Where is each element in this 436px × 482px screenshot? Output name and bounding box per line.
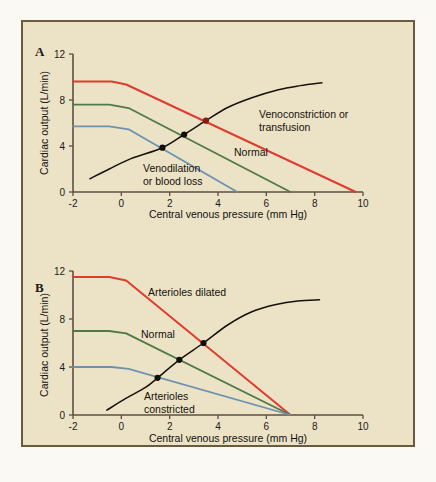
panel-a-letter: A — [35, 44, 44, 60]
panel-b-letter: B — [35, 280, 44, 296]
panel-a-background — [21, 20, 415, 235]
figure-root: A B -2024681004812Central venous pressur… — [0, 0, 436, 482]
panel-b-background — [21, 235, 415, 447]
